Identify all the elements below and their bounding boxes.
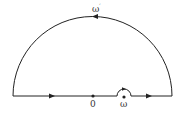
label-arc-sup: ′ [99, 2, 100, 9]
arrow-right-segment-icon [146, 94, 152, 99]
contour-diagram [0, 0, 188, 113]
arrow-indent-icon [122, 87, 126, 90]
origin-point [91, 94, 94, 97]
label-pole: ω [120, 100, 127, 109]
arrow-left-segment-icon [49, 94, 55, 99]
contour-path [13, 17, 172, 97]
label-origin: 0 [90, 100, 96, 109]
arrow-arc-top-icon [92, 14, 98, 19]
label-arc: ω′ [92, 3, 101, 14]
